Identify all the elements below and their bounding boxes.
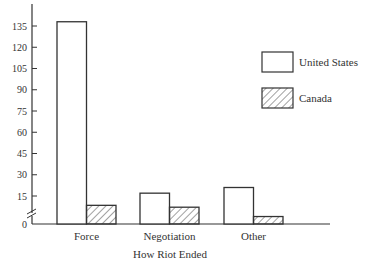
category-label-negotiation: Negotiation (144, 230, 196, 242)
legend-swatch-united-states (262, 52, 293, 72)
bar-united-states-force (57, 22, 87, 224)
category-label-force: Force (74, 230, 99, 242)
bar-canada-negotiation (170, 207, 200, 224)
legend-label-canada: Canada (299, 92, 332, 104)
y-axis: 0153045607590105120135 (12, 4, 37, 230)
legend-swatch-canada (262, 88, 293, 108)
y-tick-label: 135 (12, 21, 27, 32)
x-axis-title: How Riot Ended (133, 248, 207, 260)
bar-chart: 0153045607590105120135 ForceNegotiationO… (0, 0, 380, 269)
y-tick-label: 45 (17, 148, 27, 159)
bar-united-states-negotiation (140, 193, 170, 224)
bar-united-states-other (224, 188, 254, 225)
y-tick-label: 30 (17, 169, 27, 180)
y-tick-label: 15 (17, 191, 27, 202)
y-tick-label: 90 (17, 84, 27, 95)
category-labels: ForceNegotiationOther (74, 230, 266, 242)
legend-label-united-states: United States (299, 56, 358, 68)
y-tick-label: 75 (17, 106, 27, 117)
y-tick-label: 0 (22, 219, 27, 230)
y-tick-label: 60 (17, 127, 27, 138)
bar-canada-other (254, 217, 284, 224)
y-tick-label: 120 (12, 42, 27, 53)
y-tick-label: 105 (12, 63, 27, 74)
bars (57, 22, 283, 224)
bar-canada-force (87, 205, 117, 224)
legend: United States Canada (262, 52, 358, 108)
category-label-other: Other (241, 230, 266, 242)
